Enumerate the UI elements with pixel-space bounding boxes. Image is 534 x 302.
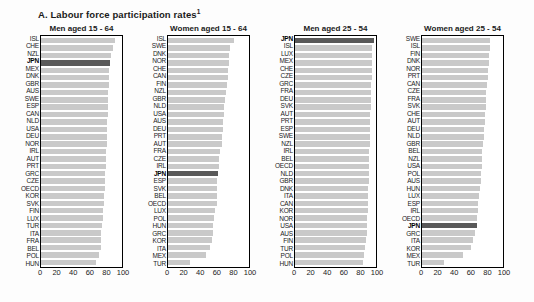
bar-row-kor [295, 207, 376, 214]
category-labels: SWEISLFINDNKNORPRTCANCZEFRASVKCHEAUTDEUN… [387, 35, 421, 268]
bar-aus [295, 230, 367, 236]
bar-fra [41, 237, 101, 243]
x-axis-tick-80: 80 [229, 269, 237, 277]
panel-women-aged-15-64: Women aged 15 - 64ISLSWEDNKNORCHECANFINN… [133, 22, 250, 280]
bar-row-jpn [41, 59, 122, 66]
bar-row-nor [41, 140, 122, 147]
bar-row-cze [295, 74, 376, 81]
bar-gbr [41, 82, 109, 88]
bar-row-che [295, 67, 376, 74]
bar-prt [168, 134, 222, 140]
bar-svk [168, 186, 217, 192]
category-label-isl: ISL [387, 43, 420, 51]
bar-oecd [41, 186, 105, 192]
bar-ita [168, 245, 210, 251]
figure-title-footnote-marker: 1 [197, 8, 201, 15]
bar-row-gbr [41, 81, 122, 88]
bar-row-grc [295, 81, 376, 88]
bar-usa [168, 112, 224, 118]
bar-row-oecd [41, 185, 122, 192]
bar-irl [295, 149, 369, 155]
bar-row-che [422, 111, 503, 118]
bar-nor [168, 60, 229, 66]
bar-gbr [168, 97, 225, 103]
bar-row-jpn [295, 37, 376, 44]
x-axis-tick-20: 20 [179, 269, 187, 277]
bar-row-can [295, 200, 376, 207]
bar-row-esp [422, 200, 503, 207]
bar-row-usa [422, 163, 503, 170]
bar-row-usa [295, 222, 376, 229]
bar-row-nld [41, 118, 122, 125]
bar-grc [295, 82, 371, 88]
bar-tur [41, 223, 102, 229]
bar-row-aut [295, 111, 376, 118]
bar-ita [422, 237, 473, 243]
bar-row-bel [422, 148, 503, 155]
bar-esp [41, 104, 108, 110]
category-label-tur: TUR [133, 260, 166, 268]
bar-kor [168, 237, 212, 243]
bar-row-pol [41, 251, 122, 258]
bar-row-dnk [295, 185, 376, 192]
bar-che [422, 112, 485, 118]
bar-row-aut [41, 155, 122, 162]
x-axis-tick-100: 100 [498, 269, 511, 277]
category-label-jpn: JPN [6, 58, 39, 66]
bar-row-dnk [168, 52, 249, 59]
category-label-aus: AUS [6, 88, 39, 96]
bar-deu [41, 134, 107, 140]
bar-row-kor [422, 244, 503, 251]
x-axis-tick-40: 40 [323, 269, 331, 277]
bar-row-esp [295, 126, 376, 133]
bar-fin [422, 53, 489, 59]
category-label-mex: MEX [260, 58, 293, 66]
bar-irl [422, 208, 478, 214]
bar-svk [422, 104, 486, 110]
bar-row-nzl [168, 89, 249, 96]
bar-row-jpn [168, 170, 249, 177]
bar-row-swe [422, 37, 503, 44]
bar-row-can [168, 74, 249, 81]
bar-row-nld [422, 133, 503, 140]
bar-aut [422, 119, 485, 125]
bar-che [41, 45, 113, 51]
bar-row-nzl [422, 155, 503, 162]
bar-nzl [41, 53, 111, 59]
bar-prt [41, 164, 106, 170]
bar-row-pol [295, 251, 376, 258]
bar-can [168, 75, 228, 81]
bar-row-fin [295, 237, 376, 244]
bar-row-oecd [422, 214, 503, 221]
bar-lux [41, 215, 103, 221]
bar-nzl [168, 90, 226, 96]
bar-ita [295, 193, 368, 199]
bar-prt [295, 119, 370, 125]
category-label-fra: FRA [260, 88, 293, 96]
category-label-swe: SWE [133, 43, 166, 51]
x-axis-tick-0: 0 [38, 269, 42, 277]
bar-irl [168, 164, 219, 170]
bar-fin [168, 82, 227, 88]
bar-nld [295, 171, 369, 177]
bar-row-ita [295, 192, 376, 199]
bar-oecd [422, 215, 477, 221]
category-label-dnk: DNK [387, 58, 420, 66]
category-labels: ISLSWEDNKNORCHECANFINNZLGBRNLDUSAAUSDEUP… [133, 35, 167, 268]
bar-ita [41, 230, 101, 236]
bar-row-cze [41, 177, 122, 184]
bar-row-ita [422, 237, 503, 244]
bar-row-grc [422, 229, 503, 236]
bar-row-isl [41, 37, 122, 44]
bar-row-gbr [168, 96, 249, 103]
bar-row-lux [422, 192, 503, 199]
bar-row-esp [41, 104, 122, 111]
bar-usa [422, 164, 482, 170]
x-axis-tick-20: 20 [52, 269, 60, 277]
plot-area [167, 35, 250, 268]
bar-bel [41, 245, 101, 251]
bar-swe [295, 134, 370, 140]
bar-row-lux [168, 207, 249, 214]
panel-title: Women aged 15 - 64 [133, 22, 250, 35]
bar-bel [422, 149, 482, 155]
